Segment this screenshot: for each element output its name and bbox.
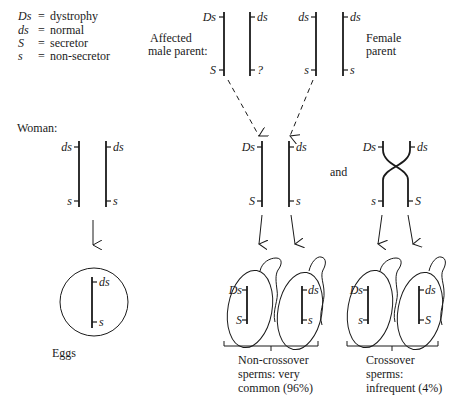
allele-label: S: [210, 63, 216, 77]
arrow-down-icon: [378, 215, 382, 244]
eggs-label: Eggs: [52, 346, 76, 360]
allele-label: ds: [308, 283, 319, 297]
svg-text:Non-crossover: Non-crossover: [238, 353, 309, 367]
legend-symbol: Ds: [17, 9, 32, 23]
and-label: and: [330, 165, 347, 179]
svg-text:infrequent (4%): infrequent (4%): [366, 381, 442, 395]
legend-eq: =: [38, 36, 45, 50]
female-parent-label: Female: [366, 31, 401, 45]
crossover-pair: Ds ds s S: [362, 140, 428, 208]
legend-symbol: ds: [18, 23, 29, 37]
allele-label: ds: [296, 140, 307, 154]
allele-label: ds: [61, 140, 72, 154]
svg-text:sperms:: sperms:: [366, 367, 403, 381]
legend-symbol: S: [18, 36, 24, 50]
legend-meaning: dystrophy: [50, 9, 98, 23]
dashed-arrow-icon: [290, 80, 313, 136]
legend-eq: =: [38, 49, 45, 63]
allele-label: S: [249, 194, 255, 208]
allele-label: ?: [257, 63, 263, 77]
dashed-arrow-icon: [228, 80, 259, 136]
allele-label: s: [358, 313, 363, 327]
legend-eq: =: [38, 9, 45, 23]
allele-label: Ds: [349, 283, 364, 297]
woman-label: Woman:: [17, 121, 57, 135]
allele-label: ds: [113, 140, 124, 154]
allele-label: S: [415, 194, 421, 208]
arrow-down-icon: [408, 215, 413, 244]
egg-cell: [60, 268, 128, 336]
sperm-noncrossover-2: ds s: [272, 257, 329, 353]
allele-label: ds: [257, 10, 268, 24]
allele-label: Ds: [228, 283, 243, 297]
genetics-linkage-diagram: Ds = dystrophy ds = normal S = secretor …: [0, 0, 460, 403]
female-parent-label: parent: [366, 44, 397, 58]
legend-symbol: s: [18, 49, 23, 63]
legend-meaning: normal: [50, 23, 85, 37]
legend: Ds = dystrophy ds = normal S = secretor …: [17, 9, 110, 63]
man-genotype: Ds S ds s: [241, 140, 307, 208]
male-parent-label: Affected: [150, 31, 192, 45]
allele-label: ds: [350, 10, 361, 24]
woman: Woman: ds s ds s ds s Eggs: [17, 121, 128, 360]
allele-label: S: [236, 313, 242, 327]
allele-label: ds: [298, 10, 309, 24]
allele-label: s: [371, 194, 376, 208]
allele-label: ds: [425, 283, 436, 297]
allele-label: ds: [417, 140, 428, 154]
allele-label: s: [296, 194, 301, 208]
bracket: [224, 341, 318, 351]
arrow-down-icon: [291, 215, 295, 244]
allele-label: s: [350, 63, 355, 77]
male-parent-label: male parent:: [148, 44, 208, 58]
svg-text:Crossover: Crossover: [366, 353, 415, 367]
allele-label: s: [67, 194, 72, 208]
sperm-crossover-1: Ds s: [342, 258, 402, 351]
legend-meaning: secretor: [50, 36, 88, 50]
sperm-crossover-2: ds S: [392, 257, 449, 353]
allele-label: S: [425, 313, 431, 327]
allele-label: Ds: [241, 140, 256, 154]
noncrossover-caption: Non-crossover sperms: very common (96%): [238, 353, 313, 395]
svg-text:sperms: very: sperms: very: [238, 367, 300, 381]
crossover-caption: Crossover sperms: infrequent (4%): [366, 353, 442, 395]
allele-label: ds: [99, 275, 110, 289]
legend-meaning: non-secretor: [50, 49, 110, 63]
svg-text:common (96%): common (96%): [238, 381, 313, 395]
male-parent: Affected male parent: Ds S ds ?: [148, 10, 268, 77]
female-parent: ds s ds s Female parent: [298, 10, 401, 77]
allele-label: Ds: [202, 10, 217, 24]
allele-label: s: [99, 315, 104, 329]
sperm-noncrossover-1: Ds S: [222, 258, 282, 351]
allele-label: Ds: [362, 140, 377, 154]
legend-eq: =: [38, 23, 45, 37]
allele-label: s: [304, 63, 309, 77]
allele-label: s: [308, 313, 313, 327]
bracket: [347, 341, 438, 351]
allele-label: s: [113, 194, 118, 208]
arrow-down-icon: [259, 215, 262, 244]
